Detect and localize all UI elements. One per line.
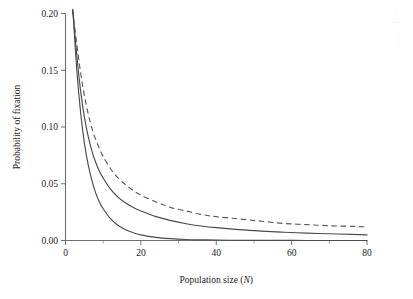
middle-solid-curve xyxy=(73,10,367,234)
fixation-probability-chart: 0.000.050.100.150.20 020406080 Probabili… xyxy=(0,0,413,299)
x-tick-label: 0 xyxy=(63,248,68,258)
x-tick-label: 60 xyxy=(287,248,297,258)
scan-artifact xyxy=(397,45,399,46)
axis-tick-marks xyxy=(61,14,367,246)
scan-artifact xyxy=(396,10,398,11)
x-axis-tick-labels: 020406080 xyxy=(63,248,372,258)
lower-solid-curve xyxy=(73,9,367,240)
y-tick-label: 0.10 xyxy=(41,122,58,132)
x-tick-label: 20 xyxy=(136,248,146,258)
scan-artifact xyxy=(396,22,399,23)
y-tick-label: 0.20 xyxy=(41,9,58,19)
upper-dashed-curve xyxy=(73,11,367,227)
data-curves xyxy=(73,9,367,240)
x-axis-title: Population size (N) xyxy=(180,275,253,286)
y-tick-label: 0.05 xyxy=(41,179,58,189)
y-tick-label: 0.00 xyxy=(41,236,58,246)
scan-artifact xyxy=(396,34,398,35)
y-axis-title: Probability of fixation xyxy=(12,85,22,170)
y-axis-tick-labels: 0.000.050.100.150.20 xyxy=(41,9,58,246)
y-tick-label: 0.15 xyxy=(41,66,58,76)
figure-panel: 0.000.050.100.150.20 020406080 Probabili… xyxy=(0,0,413,299)
x-tick-label: 40 xyxy=(212,248,222,258)
x-tick-label: 80 xyxy=(362,248,372,258)
